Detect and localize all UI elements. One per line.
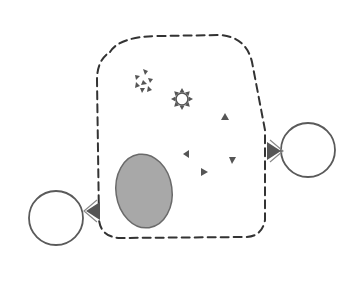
cell-diagram [0, 0, 355, 295]
left-external-circle [29, 191, 83, 245]
gray-oval-organelle [111, 150, 177, 231]
right-external-circle [281, 123, 335, 177]
free-triangle-right-icon [201, 168, 208, 176]
triangle-ring-cluster-icon [171, 88, 193, 110]
free-triangle-down-icon [229, 157, 236, 164]
right-receptor-arrow-icon [267, 140, 283, 162]
free-triangle-up-icon [221, 113, 229, 120]
free-triangle-left-icon [183, 150, 189, 158]
scattered-triangle-cluster-icon [135, 69, 153, 93]
left-receptor-arrow-icon [84, 200, 100, 222]
